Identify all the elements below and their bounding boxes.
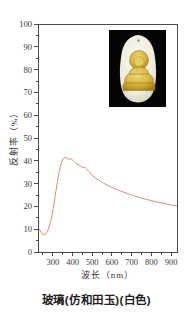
x-tick-label: 800 (145, 257, 158, 267)
y-tick-label: 40 (24, 156, 33, 166)
y-tick-label: 70 (24, 87, 33, 97)
x-tick-label: 500 (86, 257, 99, 267)
y-tick-label: 30 (24, 179, 33, 189)
y-tick-label: 50 (24, 133, 33, 143)
pendant-hole (137, 39, 139, 41)
inset-pendant-photo (109, 30, 166, 107)
y-tick-label: 100 (19, 19, 32, 29)
buddha-face (134, 57, 144, 67)
y-tick-label: 80 (24, 65, 33, 75)
y-tick-label: 10 (24, 224, 33, 234)
figure-caption: 玻璃(仿和田玉)(白色) (0, 291, 193, 307)
x-tick-label: 600 (106, 257, 119, 267)
y-tick-label: 0 (28, 247, 32, 257)
x-tick-label: 400 (66, 257, 79, 267)
x-axis-label: 波长（nm） (38, 268, 177, 281)
spectral-reflectance-figure: 0102030405060708090100300400500600700800… (0, 0, 193, 322)
x-tick-label: 300 (46, 257, 59, 267)
y-tick-label: 90 (24, 42, 33, 52)
y-tick-label: 60 (24, 110, 33, 120)
x-tick-label: 700 (125, 257, 138, 267)
x-tick-label: 900 (165, 257, 178, 267)
reflectance-curve (39, 157, 176, 234)
y-tick-label: 20 (24, 201, 33, 211)
y-axis-label: 反射率（%） (7, 104, 19, 170)
